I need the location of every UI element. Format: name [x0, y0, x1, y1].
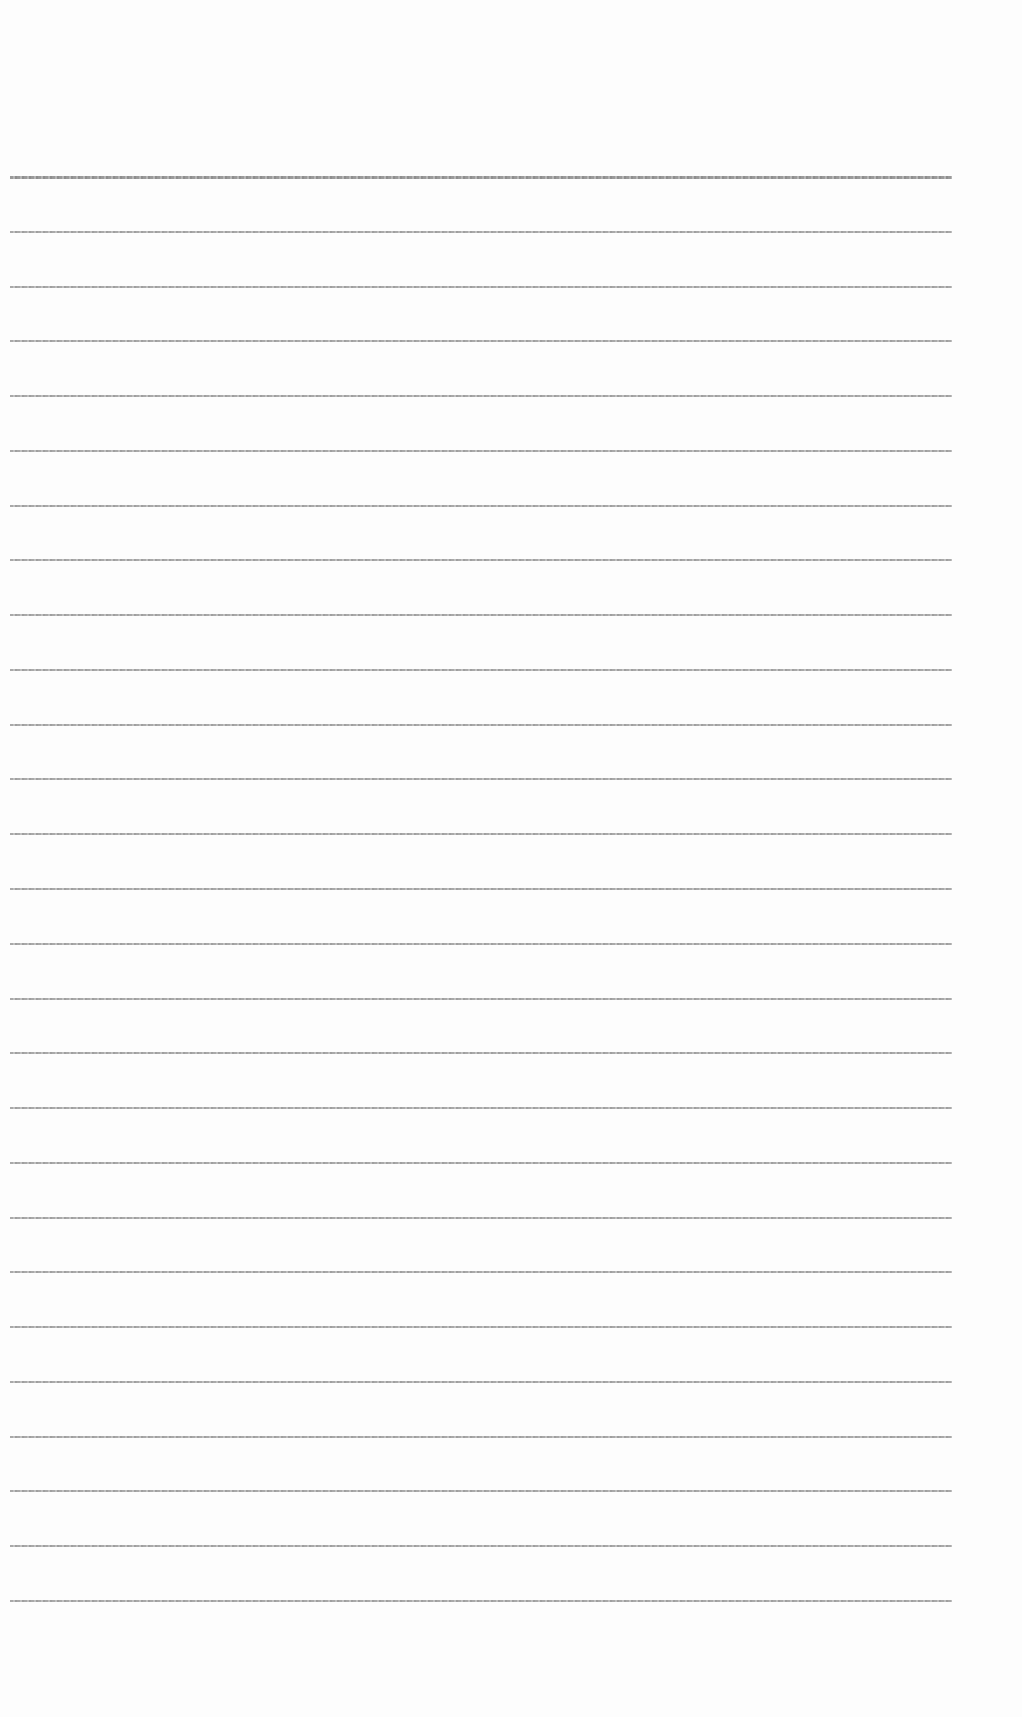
ruled-line: [10, 340, 952, 342]
ruled-line: [10, 1162, 952, 1164]
ruled-line: [10, 669, 952, 671]
ruled-line: [10, 614, 952, 616]
ruled-line: [10, 176, 952, 179]
ruled-line: [10, 1381, 952, 1383]
ruled-line: [10, 1490, 952, 1492]
ruled-line: [10, 1107, 952, 1109]
ruled-line: [10, 724, 952, 726]
ruled-line: [10, 778, 952, 780]
ruled-line: [10, 1600, 952, 1602]
ruled-line: [10, 943, 952, 945]
ruled-line: [10, 1326, 952, 1328]
ruled-line: [10, 505, 952, 507]
ruled-line: [10, 833, 952, 835]
lined-paper-sheet: [0, 0, 1022, 1717]
ruled-line: [10, 888, 952, 890]
ruled-line: [10, 1052, 952, 1054]
ruled-line: [10, 1436, 952, 1438]
ruled-line: [10, 231, 952, 233]
ruled-line: [10, 286, 952, 288]
ruled-line: [10, 998, 952, 1000]
ruled-line: [10, 1271, 952, 1273]
ruled-line: [10, 1217, 952, 1219]
ruled-line: [10, 450, 952, 452]
ruled-line: [10, 395, 952, 397]
ruled-line: [10, 559, 952, 561]
ruled-line: [10, 1545, 952, 1547]
